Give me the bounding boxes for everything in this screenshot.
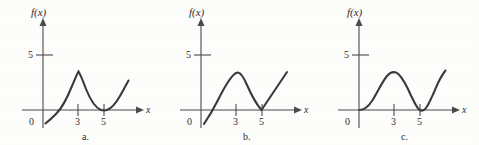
graph-panel-b: f(x) x 5 0 3 5 b. [158,0,318,145]
curve-c [360,71,446,111]
y-axis-arrowhead-b [198,18,205,26]
figure-three-graphs: f(x) x 5 0 3 5 a. f(x) x 5 0 3 5 [0,0,479,145]
graph-b-svg [158,0,318,145]
caption-c: c. [401,132,408,142]
x-axis-label-c: x [462,105,466,115]
x-tick-label-3-a: 3 [75,117,80,127]
curve-a [46,72,129,124]
x-axis-arrowhead-c [452,107,460,114]
x-axis-arrowhead-a [136,107,144,114]
x-tick-label-5-c: 5 [417,117,422,127]
x-axis-label-a: x [146,105,150,115]
graph-panel-a: f(x) x 5 0 3 5 a. [0,0,160,145]
x-axis-label-b: x [304,105,308,115]
y-axis-arrowhead-a [40,18,47,26]
y-axis-label-c: f(x) [347,7,362,18]
graph-panel-c: f(x) x 5 0 3 5 c. [316,0,476,145]
x-tick-label-5-a: 5 [101,117,106,127]
x-tick-label-5-b: 5 [259,117,264,127]
y-tick-label-5-c: 5 [344,50,349,60]
origin-label-c: 0 [345,117,350,127]
y-tick-label-5-a: 5 [28,50,33,60]
y-axis-label-b: f(x) [189,7,204,18]
caption-a: a. [82,132,89,142]
curve-b-right [262,72,288,110]
origin-label-b: 0 [187,117,192,127]
x-tick-label-3-b: 3 [233,117,238,127]
graph-c-svg [316,0,479,145]
y-axis-arrowhead-c [356,18,363,26]
graph-a-svg [0,0,160,145]
caption-b: b. [243,132,251,142]
y-tick-label-5-b: 5 [186,50,191,60]
x-tick-label-3-c: 3 [391,117,396,127]
y-axis-label-a: f(x) [31,7,46,18]
x-axis-arrowhead-b [294,107,302,114]
origin-label-a: 0 [29,117,34,127]
